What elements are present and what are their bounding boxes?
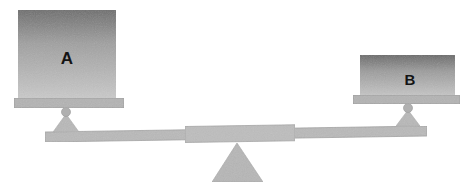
block-a: A [18,10,116,98]
block-a-label: A [61,49,73,68]
beam-center-segment [185,125,295,143]
balance-scale-diagram: A B [0,0,471,194]
left-pivot-ball [62,108,71,117]
left-pan [14,98,124,108]
block-b-label: B [405,71,416,88]
block-b: B [360,55,455,95]
right-pan [353,95,460,104]
right-pivot-ball [404,104,413,113]
diagram-canvas: A B [0,0,471,194]
